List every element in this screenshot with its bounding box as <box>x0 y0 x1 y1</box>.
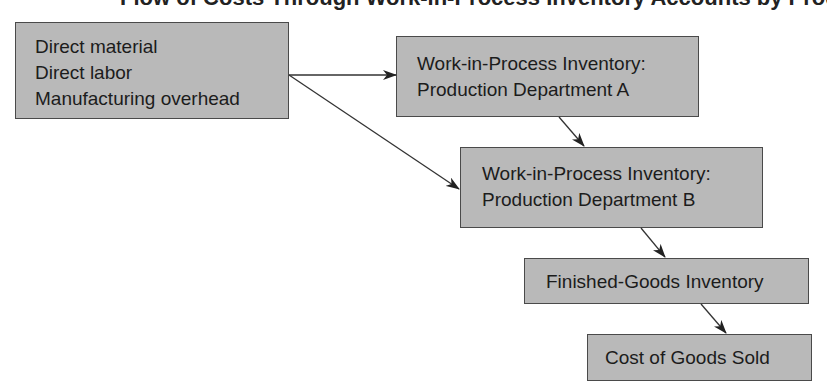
wip-a-line-1: Work-in-Process Inventory: <box>417 51 698 77</box>
finished-goods-box: Finished-Goods Inventory <box>524 258 809 304</box>
cost-inputs-box: Direct material Direct labor Manufacturi… <box>15 22 289 119</box>
cogs-label: Cost of Goods Sold <box>605 345 811 371</box>
arrow-wip-b-to-finished-goods <box>641 228 665 257</box>
wip-department-b-box: Work-in-Process Inventory: Production De… <box>460 147 763 228</box>
wip-a-line-2: Production Department A <box>417 77 698 103</box>
wip-department-a-box: Work-in-Process Inventory: Production De… <box>396 36 699 117</box>
finished-goods-label: Finished-Goods Inventory <box>546 269 808 295</box>
diagram-title: Flow of Costs Through Work-in-Process In… <box>0 0 827 11</box>
wip-b-line-2: Production Department B <box>482 187 762 213</box>
direct-labor-label: Direct labor <box>35 60 288 86</box>
arrow-finished-goods-to-cogs <box>701 304 726 333</box>
wip-b-line-1: Work-in-Process Inventory: <box>482 161 762 187</box>
cost-of-goods-sold-box: Cost of Goods Sold <box>587 334 812 381</box>
direct-material-label: Direct material <box>35 34 288 60</box>
arrow-wip-a-to-wip-b <box>559 117 584 146</box>
manufacturing-overhead-label: Manufacturing overhead <box>35 86 288 112</box>
